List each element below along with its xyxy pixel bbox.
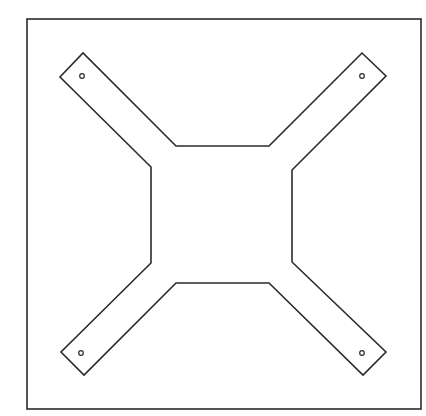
x-bracket-outline (60, 53, 386, 375)
diagram-canvas (0, 0, 426, 416)
hole-bottom-left-icon (79, 351, 84, 356)
diagram-svg (0, 0, 426, 416)
mounting-holes (79, 74, 365, 356)
hole-top-left-icon (80, 74, 85, 79)
hole-top-right-icon (360, 74, 365, 79)
hole-bottom-right-icon (360, 351, 365, 356)
